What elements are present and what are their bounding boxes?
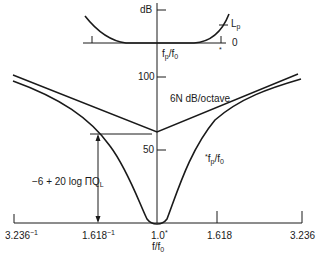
curve-label: *fp/f0 bbox=[205, 152, 224, 167]
slope-label: 6N dB/octave bbox=[170, 94, 230, 104]
x-tick-label-3: 1.618 bbox=[207, 228, 232, 241]
x-tick-label-1: 1.618−1 bbox=[82, 228, 115, 241]
x-tick-label-2: 1.0* bbox=[151, 228, 168, 241]
tick-100-label: 100 bbox=[138, 72, 155, 82]
inset-zero-label: 0 bbox=[232, 38, 238, 48]
x-tick-label-4: 3.236 bbox=[290, 228, 315, 241]
arrow-head-down-icon bbox=[96, 216, 101, 223]
inset-x-label: fp/f0 bbox=[162, 49, 178, 62]
x-tick-label-0: 3.236−1 bbox=[5, 228, 38, 241]
asymptote-6n-db-octave bbox=[13, 74, 298, 132]
inset-lp-label: Lp bbox=[231, 19, 240, 32]
inset-db-label: dB bbox=[140, 5, 152, 15]
arrow-head-up-icon bbox=[96, 134, 101, 141]
x-axis-label: f/f0 bbox=[152, 242, 164, 255]
filter-response-diagram bbox=[0, 0, 316, 258]
inset-star: * bbox=[219, 45, 222, 55]
tick-50-label: 50 bbox=[143, 145, 154, 155]
depth-label: −6 + 20 log ΠQL bbox=[32, 177, 104, 190]
